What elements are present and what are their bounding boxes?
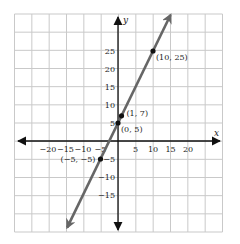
x-axis-title: x xyxy=(214,128,219,138)
y-tick-label: 5 xyxy=(110,119,115,128)
x-tick-label: −20 xyxy=(40,145,57,154)
y-tick-label: 25 xyxy=(105,47,115,56)
y-tick-label: 10 xyxy=(105,101,115,110)
x-tick-label: 15 xyxy=(165,145,175,154)
y-tick-label: −15 xyxy=(98,191,115,200)
x-tick-label: 10 xyxy=(148,145,158,154)
y-tick-label: 15 xyxy=(105,83,115,92)
coordinate-plane: x y −20−15−10−55101520−15−10−5510152025 … xyxy=(0,0,240,244)
data-point xyxy=(150,48,155,53)
x-tick-label: −15 xyxy=(57,145,74,154)
y-tick-label: −5 xyxy=(103,155,115,164)
point-label: (10, 25) xyxy=(156,53,188,62)
data-point xyxy=(98,156,103,161)
point-label: (0, 5) xyxy=(121,125,143,134)
x-tick-label: 20 xyxy=(183,145,193,154)
point-label: (−5, −5) xyxy=(61,155,96,164)
data-point xyxy=(119,113,124,118)
data-point xyxy=(115,120,120,125)
x-tick-label: 5 xyxy=(133,145,138,154)
x-tick-label: −10 xyxy=(75,145,92,154)
y-axis-title: y xyxy=(122,15,129,25)
y-tick-label: 20 xyxy=(105,65,115,74)
point-label: (1, 7) xyxy=(127,109,149,118)
y-tick-label: −10 xyxy=(98,173,115,182)
